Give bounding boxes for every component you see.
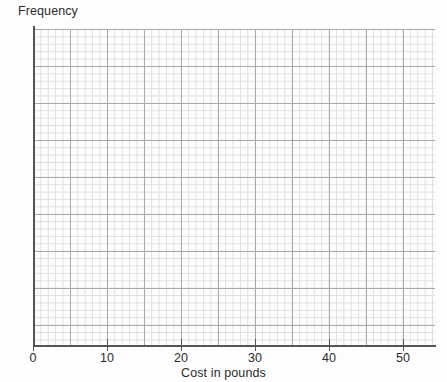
- x-axis-tick-label: 20: [174, 351, 188, 365]
- x-axis-tick: [181, 339, 182, 351]
- y-axis-title: Frequency: [18, 4, 78, 18]
- x-axis-tick: [107, 339, 108, 351]
- major-gridlines: [33, 29, 435, 345]
- x-axis-title: Cost in pounds: [0, 366, 447, 380]
- x-axis-tick: [403, 339, 404, 351]
- plot-area: [33, 29, 435, 345]
- x-axis-tick-label: 30: [248, 351, 262, 365]
- x-axis-tick: [255, 339, 256, 351]
- y-axis-line: [33, 26, 35, 346]
- x-axis-tick-label: 50: [396, 351, 410, 365]
- graph-paper-figure: Frequency 01020304050 Cost in pounds: [0, 0, 447, 382]
- x-axis-tick-label: 0: [30, 351, 37, 365]
- x-axis-tick: [33, 339, 34, 351]
- x-axis-tick: [329, 339, 330, 351]
- x-axis-tick-label: 10: [100, 351, 114, 365]
- x-axis-line: [33, 345, 436, 347]
- x-axis-tick-label: 40: [322, 351, 336, 365]
